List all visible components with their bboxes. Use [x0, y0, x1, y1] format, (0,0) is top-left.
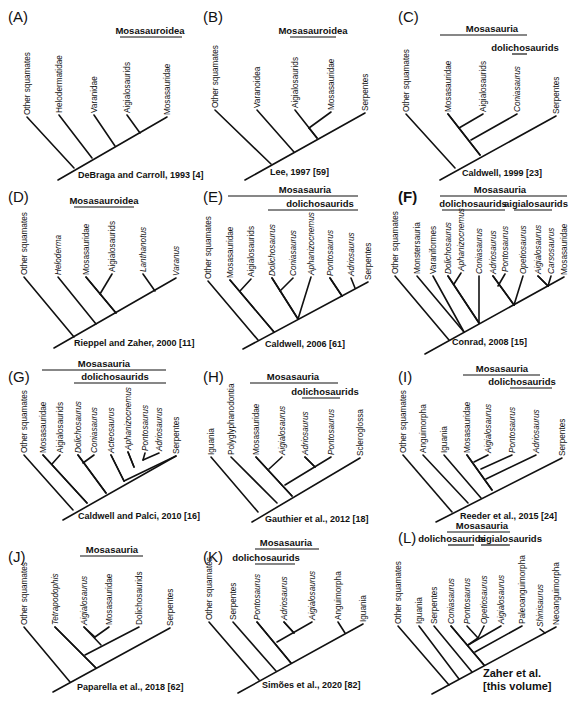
panel-citation: Simões et al., 2020 [82]: [262, 680, 361, 690]
internal-branch: [128, 452, 134, 467]
panel-letter: (F): [398, 188, 417, 205]
taxon-iguania: Iguania: [415, 597, 424, 624]
taxon-branch: [454, 273, 461, 284]
taxon-aigialosaurus: Aigialosaurus: [80, 576, 89, 626]
clade-label-mosasauria: Mosasauria: [78, 358, 131, 369]
taxon-branch: [269, 457, 282, 469]
taxon-serpentes: Serpentes: [558, 419, 567, 456]
taxon-branch: [351, 278, 355, 288]
taxon-pontosaurus: Pontosaurus: [326, 230, 335, 276]
taxon-coniasaurus: Coniasaurus: [513, 66, 522, 112]
panel-citation: Conrad, 2008 [15]: [452, 337, 527, 347]
taxon-branch: [423, 455, 468, 503]
taxon-mosasauridae: Mosasauridae: [560, 223, 569, 275]
taxon-other-squamates: Other squamates: [394, 561, 403, 624]
internal-branch: [111, 455, 124, 481]
taxon-pontosaurus: Pontosaurus: [463, 578, 472, 624]
taxon-varanoidea: Varanoidea: [253, 66, 262, 108]
taxon-branch: [467, 626, 478, 638]
taxon-branch: [257, 110, 294, 152]
panel-d: (D)MosasauroideaOther squamatesHeloderma…: [8, 188, 195, 348]
taxon-mosasauridae: Mosasauridae: [105, 573, 114, 625]
taxon-coniasaurus: Coniasaurus: [289, 230, 298, 276]
cladogram-canvas: (A)MosasauroideaOther squamatesHeloderma…: [0, 0, 585, 714]
panel-h: (H)MosasauriadolichosauridsIguaniaPolygl…: [203, 368, 369, 524]
taxon-other-squamates: Other squamates: [391, 211, 400, 274]
panel-citation: Rieppel and Zaher, 2000 [11]: [74, 338, 195, 348]
taxon-branch: [309, 112, 331, 128]
panel-letter: (G): [8, 368, 30, 385]
taxon-anguimorpha: Anguimorpha: [334, 571, 343, 620]
taxon-branch: [277, 622, 312, 642]
panel-i: (I)MosasauriadolichosauridsOther squamat…: [398, 363, 567, 522]
taxon-branch: [403, 455, 452, 512]
clade-label-mosasauria: Mosasauria: [267, 371, 320, 382]
taxon-iguania: Iguania: [440, 426, 449, 453]
taxon-carsosaurus: Carsosaurus: [547, 228, 556, 274]
clade-label-mosasauria: Mosasauria: [476, 363, 529, 374]
taxon-serpentes: Serpentes: [364, 243, 373, 280]
clade-label-aigialosaurids: aigialosaurids: [504, 198, 568, 209]
internal-branch: [448, 276, 479, 323]
taxon-branch: [85, 627, 139, 655]
taxon-adriosaurus: Adriosaurus: [301, 411, 310, 456]
panel-letter: (A): [8, 8, 28, 25]
clade-label-mosasauroidea: Mosasauroidea: [115, 25, 185, 36]
panel-a: (A)MosasauroideaOther squamatesHeloderma…: [8, 8, 204, 180]
taxon-other-squamates: Other squamates: [205, 557, 214, 620]
panel-letter: (B): [203, 8, 223, 25]
taxon-scleroglossa: Scleroglossa: [356, 409, 365, 456]
taxon-mosasauridae: Mosasauridae: [163, 63, 172, 115]
taxon-heloderma: Heloderma: [54, 235, 63, 275]
panel-letter: (L): [398, 529, 416, 546]
panel-e: (E)MosasauriadolichosauridsOther squamat…: [203, 184, 373, 349]
internal-branch: [256, 457, 292, 496]
internal-branch: [272, 278, 298, 319]
taxon-branch: [481, 455, 512, 469]
taxon-branch: [127, 115, 140, 133]
taxon-serpentes: Serpentes: [172, 417, 181, 454]
taxon-coniasaurus: Coniasaurus: [475, 228, 484, 274]
panel-letter: (E): [203, 188, 223, 205]
internal-branch: [493, 276, 514, 305]
taxon-other-squamates: Other squamates: [204, 216, 213, 279]
clade-label-mosasauria: Mosasauria: [260, 537, 313, 548]
taxon-branch: [434, 626, 472, 672]
taxon-helodermatidae: Helodermatidae: [55, 55, 64, 113]
taxon-pontosaurus: Pontosaurus: [501, 226, 510, 272]
taxon-pontosaurus: Pontosaurus: [508, 407, 517, 453]
taxon-branch: [419, 626, 459, 679]
taxon-shinisaurus: Shinisaurus: [536, 584, 545, 627]
internal-branch: [467, 455, 492, 490]
taxon-adriosaurus: Adriosaurus: [280, 576, 289, 621]
backbone-branch: [252, 458, 360, 522]
taxon-branch: [233, 622, 276, 671]
taxon-aphanizocnemus: Aphanizocnemus: [124, 387, 133, 451]
taxon-mosasauridae: Mosasauridae: [226, 226, 235, 278]
clade-label-mosasauroidea: Mosasauroidea: [69, 195, 139, 206]
taxon-coniasaurus: Coniasaurus: [90, 407, 99, 453]
clade-label-mosasauria: Mosasauria: [474, 184, 527, 195]
taxon-aigialosaurus: Aigialosaurus: [534, 225, 543, 275]
clade-label-dolichosaurids: dolichosaurids: [232, 552, 300, 563]
taxon-mosasauridae: Mosasauridae: [39, 401, 48, 453]
taxon-branch: [83, 455, 94, 463]
taxon-varaniformes: Varaniformes: [429, 226, 438, 274]
taxon-lanthanotus: Lanthanotus: [139, 227, 148, 272]
taxon-other-squamates: Other squamates: [20, 390, 29, 453]
taxon-monstersauria: Monstersauria: [413, 222, 422, 274]
taxon-dolichosaurus: Dolichosaurus: [444, 222, 453, 274]
taxon-adriosaurus: Adriosaurus: [489, 230, 498, 275]
panel-citation: Zaher et al.: [483, 667, 541, 679]
taxon-serpentes: Serpentes: [430, 587, 439, 624]
taxon-aigialosaurids: Aigialosaurids: [247, 226, 256, 277]
taxon-anguimorpha: Anguimorpha: [419, 404, 428, 453]
taxon-acteosaurus: Acteosaurus: [107, 407, 116, 454]
panel-citation: Caldwell, 1999 [23]: [462, 168, 542, 178]
clade-label-mosasauria: Mosasauria: [456, 520, 509, 531]
taxon-branch: [100, 274, 112, 294]
internal-branch: [86, 277, 116, 313]
taxon-mosasauridae: Mosasauridae: [444, 60, 453, 112]
panel-f: (F)Mosasauriadolichosauridsaigialosaurid…: [391, 184, 569, 354]
taxon-dolichosaurus: Dolichosaurus: [74, 401, 83, 453]
